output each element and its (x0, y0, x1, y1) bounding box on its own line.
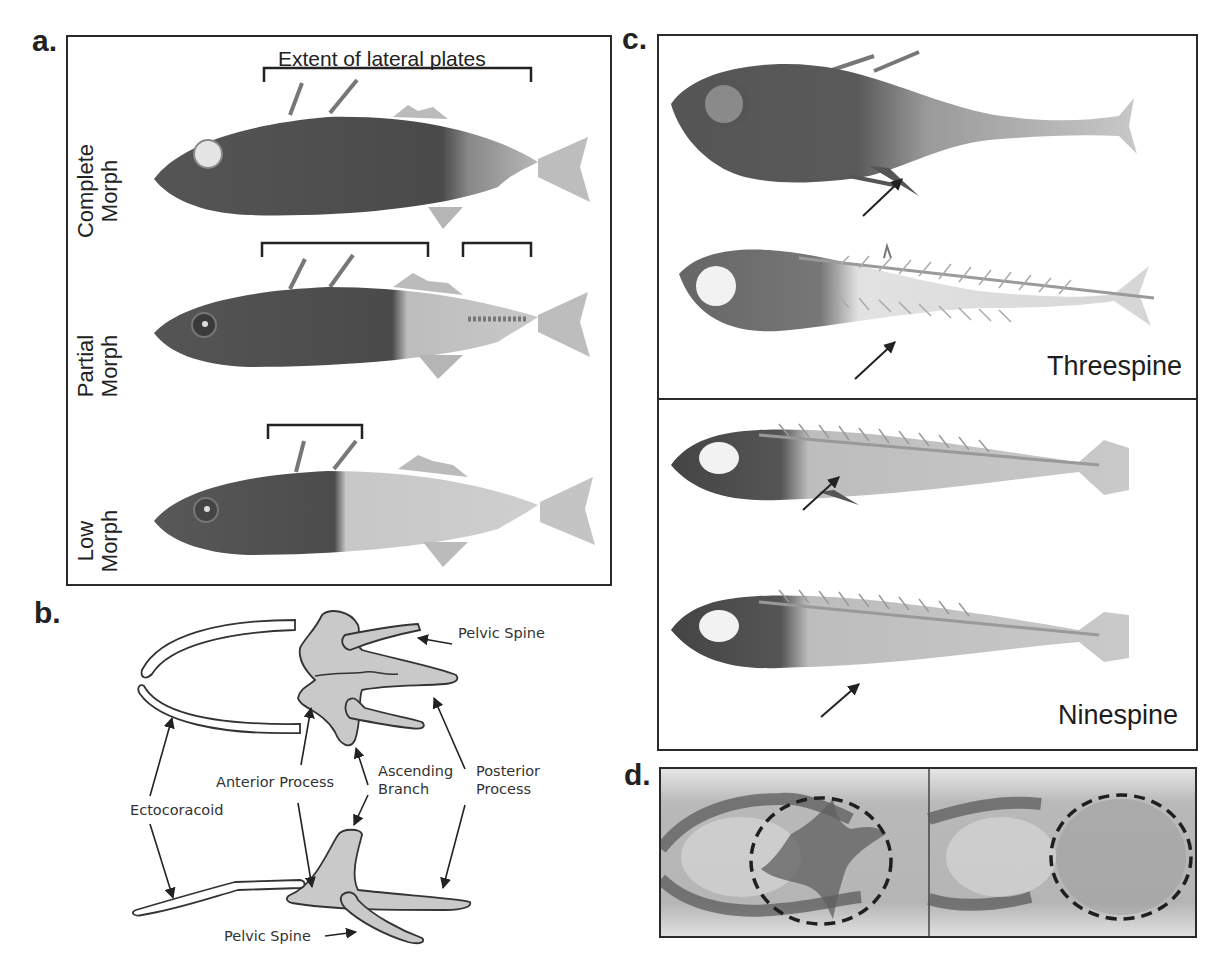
ninespine-fish-without-pelvis (671, 590, 1129, 668)
panel-b-diagram: Pelvic Spine Anterior Process Ascending … (100, 590, 600, 960)
panel-letter-d: d. (624, 758, 651, 792)
bracket-low (268, 425, 362, 439)
label-ascending-line1: Ascending (378, 762, 453, 780)
panel-a-illustration (68, 37, 614, 588)
fish-complete-morph (154, 80, 590, 229)
fish-partial-morph (154, 255, 590, 379)
ectocoracoid-top (138, 620, 300, 733)
species-label-ninespine: Ninespine (1058, 700, 1178, 731)
row-label-line1: Partial (74, 301, 98, 431)
panel-c-threespine: Threespine (659, 36, 1196, 400)
label-posterior-line2: Process (476, 780, 540, 798)
label-ascending-branch: Ascending Branch (378, 762, 453, 798)
threespine-fish-with-pelvis (671, 52, 1137, 196)
row-label-line1: Complete (74, 126, 98, 256)
panel-d-frame (659, 767, 1197, 938)
panel-c-frame: Threespine (657, 34, 1198, 751)
label-anterior-process: Anterior Process (216, 773, 334, 791)
label-pelvic-spine-top: Pelvic Spine (458, 624, 545, 642)
label-ascending-line2: Branch (378, 780, 453, 798)
row-label-partial-morph: Partial Morph (74, 301, 122, 431)
threespine-xray-images (659, 36, 1196, 398)
row-label-line2: Morph (98, 476, 122, 606)
label-posterior-process: Posterior Process (476, 762, 540, 798)
fish-low-morph (154, 441, 595, 567)
ninespine-fish-with-pelvis (671, 424, 1129, 505)
row-label-low-morph: Low Morph (74, 476, 122, 606)
row-label-complete-morph: Complete Morph (74, 126, 122, 256)
ectocoracoid-bottom (133, 880, 305, 915)
row-label-line2: Morph (98, 301, 122, 431)
row-label-line2: Morph (98, 126, 122, 256)
label-ectocoracoid: Ectocoracoid (130, 801, 223, 819)
pelvis-top (298, 611, 457, 745)
label-pelvic-spine-bottom: Pelvic Spine (224, 927, 311, 945)
bracket-complete (264, 68, 531, 82)
bracket-partial (262, 243, 531, 257)
row-label-line1: Low (74, 476, 98, 606)
panel-letter-a: a. (32, 24, 57, 58)
threespine-fish-without-pelvis (679, 246, 1154, 331)
panel-letter-c: c. (622, 22, 647, 56)
panel-a-frame: Extent of lateral plates (66, 35, 612, 586)
label-posterior-line1: Posterior (476, 762, 540, 780)
ninespine-xray-images (659, 400, 1196, 749)
panel-c-ninespine: Ninespine (659, 400, 1196, 749)
ventral-xray-comparison (661, 769, 1195, 936)
species-label-threespine: Threespine (1047, 351, 1182, 382)
panel-letter-b: b. (34, 596, 61, 630)
